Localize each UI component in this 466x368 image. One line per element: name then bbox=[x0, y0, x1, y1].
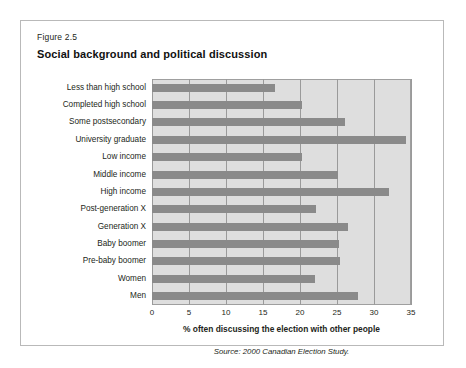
category-label: Pre-baby boomer bbox=[83, 257, 146, 265]
bar-row: Some postsecondary bbox=[152, 114, 411, 131]
category-label: University graduate bbox=[75, 136, 146, 144]
category-label: Some postsecondary bbox=[69, 118, 146, 126]
bar bbox=[152, 257, 340, 265]
bar-row: Men bbox=[152, 288, 411, 305]
bar-row: Women bbox=[152, 270, 411, 287]
bar-row: University graduate bbox=[152, 131, 411, 148]
bar bbox=[152, 223, 348, 231]
bar-row: Post-generation X bbox=[152, 201, 411, 218]
bar-row: Less than high school bbox=[152, 79, 411, 96]
bar bbox=[152, 84, 275, 92]
bar-row: Generation X bbox=[152, 218, 411, 235]
gridline-35 bbox=[411, 79, 412, 305]
x-tick-label: 20 bbox=[296, 308, 305, 317]
bar-row: Middle income bbox=[152, 166, 411, 183]
chart-plot: Less than high schoolCompleted high scho… bbox=[152, 79, 411, 305]
x-tick-label: 30 bbox=[370, 308, 379, 317]
bar bbox=[152, 171, 338, 179]
bar bbox=[152, 153, 302, 161]
bar-row: Low income bbox=[152, 149, 411, 166]
category-label: Generation X bbox=[98, 223, 146, 231]
figure-number: Figure 2.5 bbox=[37, 32, 77, 42]
figure-container: Figure 2.5 Social background and politic… bbox=[20, 20, 444, 346]
x-tick-label: 5 bbox=[187, 308, 191, 317]
category-label: Completed high school bbox=[63, 101, 146, 109]
category-label: Post-generation X bbox=[80, 205, 146, 213]
bar bbox=[152, 188, 389, 196]
x-axis-label: % often discussing the election with oth… bbox=[152, 324, 411, 334]
x-tick-label: 15 bbox=[259, 308, 268, 317]
category-label: Baby boomer bbox=[97, 240, 146, 248]
bar bbox=[152, 240, 339, 248]
category-label: Women bbox=[118, 275, 146, 283]
figure-title: Social background and political discussi… bbox=[37, 48, 267, 60]
bar bbox=[152, 136, 406, 144]
bar bbox=[152, 275, 315, 283]
category-label: Less than high school bbox=[67, 84, 146, 92]
x-tick-label: 0 bbox=[150, 308, 154, 317]
bar bbox=[152, 205, 316, 213]
category-label: Middle income bbox=[93, 171, 146, 179]
bar bbox=[152, 101, 302, 109]
category-label: High income bbox=[100, 188, 146, 196]
category-label: Low income bbox=[102, 153, 146, 161]
bar-row: High income bbox=[152, 183, 411, 200]
bar-series: Less than high schoolCompleted high scho… bbox=[152, 79, 411, 305]
category-label: Men bbox=[130, 292, 146, 300]
x-tick-label: 35 bbox=[407, 308, 416, 317]
bar-row: Pre-baby boomer bbox=[152, 253, 411, 270]
bar bbox=[152, 118, 345, 126]
bar-row: Completed high school bbox=[152, 96, 411, 113]
x-tick-label: 25 bbox=[333, 308, 342, 317]
source-note: Source: 2000 Canadian Election Study. bbox=[152, 347, 411, 356]
bar-row: Baby boomer bbox=[152, 235, 411, 252]
bar bbox=[152, 292, 358, 300]
x-tick-label: 10 bbox=[222, 308, 231, 317]
